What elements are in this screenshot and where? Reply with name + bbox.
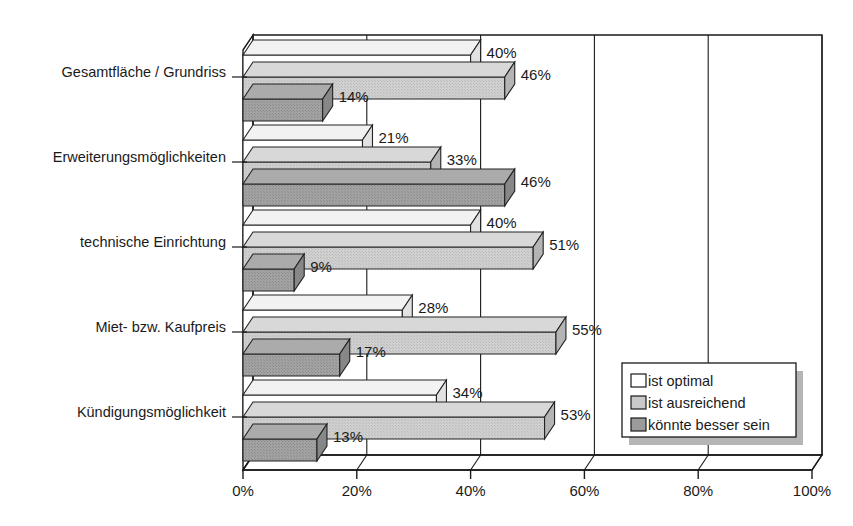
value-label: 28%	[418, 299, 448, 316]
legend-swatch	[631, 374, 646, 387]
value-label: 13%	[333, 428, 363, 445]
value-label: 17%	[356, 343, 386, 360]
value-label: 9%	[310, 258, 332, 275]
value-label: 46%	[521, 173, 551, 190]
chart-container: Gesamtfläche / GrundrissErweiterungsmögl…	[0, 0, 853, 526]
value-label: 33%	[447, 151, 477, 168]
x-tick-label: 20%	[342, 482, 372, 499]
category-label: Erweiterungsmöglichkeiten	[53, 149, 226, 165]
legend-label: könnte besser sein	[648, 417, 770, 433]
value-label: 14%	[339, 88, 369, 105]
category-labels: Gesamtfläche / GrundrissErweiterungsmögl…	[53, 64, 226, 420]
legend-swatch	[631, 396, 646, 409]
category-label: Kündigungsmöglichkeit	[77, 404, 226, 420]
x-tick-label: 60%	[569, 482, 599, 499]
x-axis: 0%20%40%60%80%100%	[232, 470, 831, 499]
value-label: 21%	[378, 129, 408, 146]
value-label: 40%	[487, 214, 517, 231]
legend-swatch	[631, 418, 646, 431]
value-label: 46%	[521, 66, 551, 83]
value-label: 55%	[572, 321, 602, 338]
category-label: Miet- bzw. Kaufpreis	[95, 319, 226, 335]
legend-label: ist ausreichend	[648, 395, 746, 411]
legend: ist optimalist ausreichendkönnte besser …	[622, 363, 803, 445]
value-label: 53%	[561, 406, 591, 423]
category-label: technische Einrichtung	[80, 234, 226, 250]
category-label: Gesamtfläche / Grundriss	[62, 64, 226, 80]
value-label: 40%	[487, 44, 517, 61]
legend-label: ist optimal	[648, 373, 713, 389]
x-tick-label: 80%	[683, 482, 713, 499]
x-tick-label: 40%	[456, 482, 486, 499]
x-tick-label: 100%	[793, 482, 831, 499]
bar-chart: Gesamtfläche / GrundrissErweiterungsmögl…	[0, 0, 853, 526]
value-label: 34%	[452, 384, 482, 401]
value-label: 51%	[549, 236, 579, 253]
x-tick-label: 0%	[232, 482, 254, 499]
bars-layer	[243, 40, 566, 461]
